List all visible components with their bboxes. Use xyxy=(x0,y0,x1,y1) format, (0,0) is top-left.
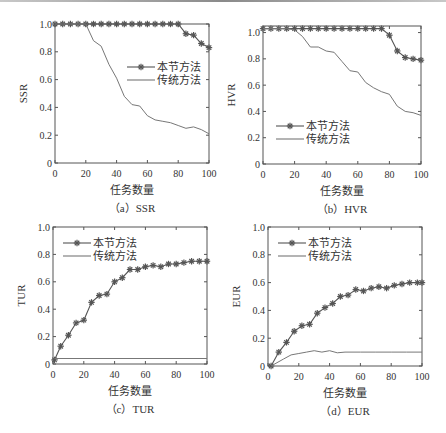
legend-label: 本节方法 xyxy=(93,236,137,250)
y-tick-label: 1.0 xyxy=(40,19,53,30)
y-axis-label: SSR xyxy=(17,83,29,103)
chart-svg-d: 02040608010000.20.40.60.81.0EUR任务数量（d）EU… xyxy=(223,216,446,433)
asterisk-marker-icon xyxy=(418,57,424,63)
asterisk-marker-icon xyxy=(363,25,369,31)
asterisk-marker-icon xyxy=(399,281,405,287)
y-tick-label: 1.0 xyxy=(38,222,51,233)
x-tick-label: 0 xyxy=(51,369,56,380)
legend-label: 本节方法 xyxy=(157,60,201,74)
y-axis-ticks: 00.20.40.60.81.0 xyxy=(40,19,210,169)
y-tick-label: 0.6 xyxy=(248,80,261,91)
x-axis-label: 任务数量 xyxy=(108,385,152,398)
x-tick-label: 20 xyxy=(79,369,89,380)
series-method xyxy=(51,258,210,363)
x-tick-label: 40 xyxy=(321,169,331,180)
x-tick-label: 60 xyxy=(140,369,150,380)
asterisk-marker-icon xyxy=(315,25,321,31)
x-tick-label: 80 xyxy=(171,369,181,380)
asterisk-marker-icon xyxy=(386,32,392,38)
asterisk-marker-icon xyxy=(307,25,313,31)
y-tick-label: 0.8 xyxy=(248,53,261,64)
asterisk-marker-icon xyxy=(119,274,125,280)
chart-svg-b: 02040608010000.20.40.60.81.0HVR任务数量（b）HV… xyxy=(223,0,446,216)
x-tick-label: 100 xyxy=(415,371,430,382)
asterisk-marker-icon xyxy=(368,285,374,291)
y-tick-label: 0.8 xyxy=(40,46,53,57)
legend-item-method: 本节方法 xyxy=(63,236,137,250)
x-tick-label: 20 xyxy=(294,371,304,382)
asterisk-marker-icon xyxy=(314,310,320,316)
asterisk-marker-icon xyxy=(106,21,112,27)
asterisk-marker-icon xyxy=(144,21,150,27)
y-tick-label: 0.6 xyxy=(253,277,266,288)
x-tick-label: 0 xyxy=(266,371,271,382)
asterisk-marker-icon xyxy=(188,258,194,264)
asterisk-marker-icon xyxy=(299,25,305,31)
asterisk-marker-icon xyxy=(88,299,94,305)
y-axis-label: HVR xyxy=(225,83,237,107)
asterisk-marker-icon xyxy=(167,21,173,27)
legend: 本节方法传统方法 xyxy=(276,119,350,146)
x-tick-label: 80 xyxy=(386,371,396,382)
y-tick-label: 1.0 xyxy=(248,27,261,38)
y-tick-label: 0 xyxy=(255,159,260,170)
chart-svg-c: 02040608010000.20.40.60.81.0TUR任务数量（c）TU… xyxy=(0,216,223,433)
y-tick-label: 0.6 xyxy=(38,276,51,287)
y-tick-label: 0.2 xyxy=(248,132,261,143)
asterisk-marker-icon xyxy=(104,291,110,297)
legend-label: 传统方法 xyxy=(308,249,352,263)
y-tick-label: 0.4 xyxy=(253,305,266,316)
chart-svg-a: 02040608010000.20.40.60.81.0SSR任务数量（a）SS… xyxy=(0,0,223,216)
asterisk-marker-icon xyxy=(291,328,297,334)
asterisk-marker-icon xyxy=(198,40,204,46)
asterisk-marker-icon xyxy=(58,343,64,349)
asterisk-marker-icon xyxy=(165,261,171,267)
asterisk-marker-icon xyxy=(142,264,148,270)
asterisk-marker-icon xyxy=(360,288,366,294)
y-tick-label: 1.0 xyxy=(253,222,266,233)
asterisk-marker-icon xyxy=(73,320,79,326)
legend-label: 传统方法 xyxy=(306,132,350,146)
y-tick-label: 0.6 xyxy=(40,74,53,85)
asterisk-marker-icon xyxy=(291,25,297,31)
legend-item-method: 本节方法 xyxy=(276,119,350,133)
chart-panel-b: 02040608010000.20.40.60.81.0HVR任务数量（b）HV… xyxy=(223,0,446,216)
asterisk-marker-icon xyxy=(173,261,179,267)
asterisk-marker-icon xyxy=(96,292,102,298)
chart-panel-d: 02040608010000.20.40.60.81.0EUR任务数量（d）EU… xyxy=(223,216,446,433)
asterisk-marker-icon xyxy=(113,21,119,27)
asterisk-marker-icon xyxy=(370,25,376,31)
legend-label: 本节方法 xyxy=(306,119,350,133)
x-axis-ticks: 020406080100 xyxy=(53,24,217,179)
y-tick-label: 0.8 xyxy=(253,249,266,260)
x-tick-label: 40 xyxy=(112,168,122,179)
x-axis-label: 任务数量 xyxy=(323,387,367,400)
y-tick-label: 0.2 xyxy=(253,333,266,344)
y-tick-label: 0 xyxy=(47,158,52,169)
y-axis-label: EUR xyxy=(230,285,242,308)
legend-item-traditional: 传统方法 xyxy=(127,73,201,87)
series-traditional xyxy=(271,351,422,366)
asterisk-marker-icon xyxy=(206,44,212,50)
y-tick-label: 0 xyxy=(260,361,265,372)
x-tick-label: 100 xyxy=(200,369,215,380)
asterisk-marker-icon xyxy=(376,284,382,290)
x-tick-label: 60 xyxy=(353,169,363,180)
x-tick-label: 100 xyxy=(202,168,217,179)
asterisk-marker-icon xyxy=(135,266,141,272)
series-method xyxy=(52,21,212,51)
x-tick-label: 0 xyxy=(53,168,58,179)
plot-frame xyxy=(55,24,209,163)
asterisk-marker-icon xyxy=(419,279,425,285)
x-tick-label: 20 xyxy=(81,168,91,179)
asterisk-marker-icon xyxy=(150,262,156,268)
asterisk-marker-icon xyxy=(329,300,335,306)
y-tick-label: 0.4 xyxy=(248,106,261,117)
legend: 本节方法传统方法 xyxy=(127,60,201,87)
y-tick-label: 0.4 xyxy=(40,102,53,113)
y-tick-label: 0.8 xyxy=(38,249,51,260)
asterisk-marker-icon xyxy=(378,25,384,31)
chart-caption: （a）SSR xyxy=(109,202,156,214)
asterisk-marker-icon xyxy=(406,279,412,285)
asterisk-marker-icon xyxy=(299,322,305,328)
